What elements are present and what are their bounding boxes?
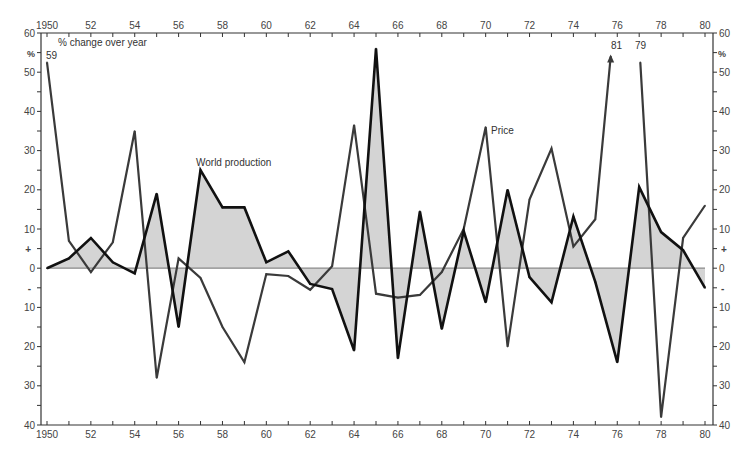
x-tick-label-top: 76	[612, 20, 624, 31]
price-point	[287, 275, 289, 277]
price-point	[222, 326, 224, 328]
y-tick-label-left: 10	[24, 302, 36, 313]
x-tick-label-top: 1950	[36, 20, 59, 31]
y-axis-title: % change over year	[58, 37, 148, 48]
world-production-point	[222, 207, 224, 209]
x-tick-label-bottom: 80	[699, 429, 711, 440]
price-point	[375, 293, 377, 295]
y-tick-label-right: 10	[719, 302, 731, 313]
y-tick-label-right: 20	[719, 184, 731, 195]
y-tick-label-right: 40	[719, 106, 731, 117]
x-tick-label-bottom: 62	[305, 429, 317, 440]
x-tick-label-top: 66	[392, 20, 404, 31]
x-tick-label-bottom: 1950	[36, 429, 59, 440]
price-point	[419, 294, 421, 296]
price-line	[47, 57, 611, 379]
price-point	[551, 148, 553, 150]
world-production-point	[134, 272, 136, 274]
x-tick-label-top: 80	[699, 20, 711, 31]
x-tick-label-top: 64	[349, 20, 361, 31]
y-tick-label-left: 60	[24, 28, 36, 39]
price-point	[244, 361, 246, 363]
y-tick-label-left: 10	[24, 224, 36, 235]
y-unit-left: %	[27, 49, 35, 59]
price-point	[639, 62, 641, 64]
world-production-point	[156, 193, 158, 195]
x-tick-label-top: 78	[656, 20, 668, 31]
x-tick-label-top: 58	[217, 20, 229, 31]
price-point	[156, 377, 158, 379]
x-tick-label-bottom: 72	[524, 429, 536, 440]
world-production-point	[507, 189, 509, 191]
world-production-point	[638, 186, 640, 188]
x-tick-label-top: 70	[480, 20, 492, 31]
price-point	[529, 199, 531, 201]
x-tick-label-top: 56	[173, 20, 185, 31]
y-tick-label-left: 30	[24, 145, 36, 156]
plus-marker-right: +	[721, 244, 727, 255]
world-production-point	[441, 328, 443, 330]
price-point	[112, 242, 114, 244]
price-point	[595, 218, 597, 220]
price-point	[507, 346, 509, 348]
world-production-point	[616, 361, 618, 363]
price-point	[660, 416, 662, 418]
x-tick-label-top: 52	[85, 20, 97, 31]
price-line-continued	[640, 62, 705, 417]
world-production-point	[573, 216, 575, 218]
world-production-point	[331, 288, 333, 290]
y-tick-label-left: 20	[24, 341, 36, 352]
world-production-point	[704, 287, 706, 289]
price-point	[90, 271, 92, 273]
y-tick-label-left: 40	[24, 420, 36, 431]
x-tick-label-bottom: 68	[436, 429, 448, 440]
minus-marker-right: -	[721, 283, 724, 294]
price-point	[46, 62, 48, 64]
world-production-point	[375, 48, 377, 50]
x-tick-label-bottom: 58	[217, 429, 229, 440]
price-point	[178, 258, 180, 260]
x-tick-label-bottom: 56	[173, 429, 185, 440]
x-tick-label-bottom: 74	[568, 429, 580, 440]
world-production-point	[68, 258, 70, 260]
plus-marker-left: +	[25, 244, 31, 255]
price-point	[134, 130, 136, 132]
world-production-point	[463, 230, 465, 232]
y-tick-label-right: 30	[719, 145, 731, 156]
price-point	[610, 56, 612, 58]
x-tick-label-top: 68	[436, 20, 448, 31]
y-tick-label-right: 50	[719, 67, 731, 78]
x-tick-label-bottom: 66	[392, 429, 404, 440]
x-tick-label-top: 72	[524, 20, 536, 31]
series-label-price: Price	[491, 125, 514, 136]
world-production-point	[660, 231, 662, 233]
world-production-point	[287, 250, 289, 252]
x-tick-label-bottom: 60	[261, 429, 273, 440]
world-production-point	[200, 169, 202, 171]
price-point	[682, 237, 684, 239]
price-point	[68, 240, 70, 242]
series-label-world-production: World production	[196, 157, 271, 168]
world-production-point	[551, 301, 553, 303]
minus-marker-left: -	[28, 283, 31, 294]
world-production-point	[419, 210, 421, 212]
y-tick-label-left: 50	[24, 67, 36, 78]
y-tick-label-right: 30	[719, 380, 731, 391]
world-production-point	[265, 261, 267, 263]
x-tick-label-bottom: 76	[612, 429, 624, 440]
y-tick-label-right: 0	[719, 263, 725, 274]
price-point	[573, 246, 575, 248]
world-production-point	[594, 281, 596, 283]
y-tick-label-left: 0	[29, 263, 35, 274]
x-tick-label-top: 62	[305, 20, 317, 31]
price-point	[200, 277, 202, 279]
world-production-point	[178, 326, 180, 328]
world-production-point	[485, 301, 487, 303]
price-point	[397, 297, 399, 299]
annotation-price-1977: 79	[635, 40, 647, 51]
y-tick-label-left: 30	[24, 380, 36, 391]
price-point	[704, 205, 706, 207]
x-tick-label-bottom: 78	[656, 429, 668, 440]
world-production-point	[682, 249, 684, 251]
y-tick-label-right: 20	[719, 341, 731, 352]
